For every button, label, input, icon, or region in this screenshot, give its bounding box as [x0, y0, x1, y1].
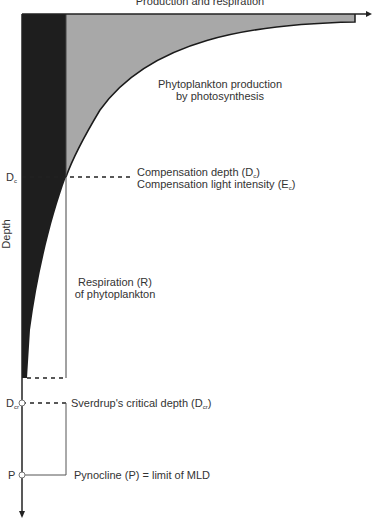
respiration-label-line2: of phytoplankton: [70, 288, 160, 300]
critical-depth-marker-icon: [19, 400, 25, 406]
x-axis-arrow-icon: [366, 11, 372, 17]
respiration-region: [22, 14, 66, 378]
compensation-light-label: Compensation light intensity (Ec): [137, 178, 295, 194]
pycnocline-label: Pynocline (P) = limit of MLD: [74, 469, 210, 481]
production-label-line2: by photosynthesis: [150, 90, 290, 102]
production-label-line1: Phytoplankton production: [150, 78, 290, 90]
y-axis-title: Depth: [0, 219, 12, 248]
critical-depth-label: Sverdrup's critical depth (Dcr): [71, 397, 211, 413]
mixed-layer-bracket: [22, 403, 66, 475]
y-axis-arrow-icon: [19, 511, 25, 518]
dcr-symbol: Dcr: [6, 397, 19, 413]
production-label: Phytoplankton production by photosynthes…: [150, 78, 290, 102]
x-axis-title: Production and respiration: [120, 0, 280, 7]
respiration-label: Respiration (R) of phytoplankton: [70, 276, 160, 300]
p-symbol: P: [8, 469, 15, 481]
dc-symbol: Dc: [6, 171, 17, 187]
pycnocline-marker-icon: [19, 472, 25, 478]
respiration-label-line1: Respiration (R): [70, 276, 160, 288]
